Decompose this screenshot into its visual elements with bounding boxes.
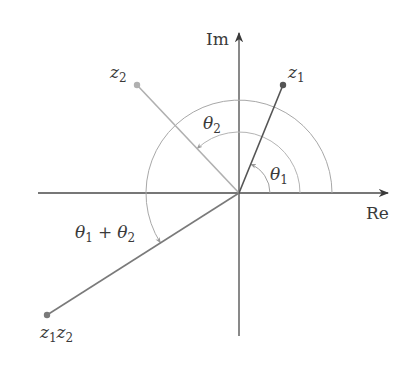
theta1-label: θ1	[270, 164, 288, 187]
theta2-label: θ2	[203, 113, 221, 136]
z2-point	[134, 82, 140, 88]
z1z2-point	[44, 312, 50, 318]
complex-multiplication-diagram: Im Re z1 z2 z1z2 θ1 θ2 θ1+θ2	[0, 0, 411, 376]
real-axis-label: Re	[366, 203, 389, 223]
z1-label: z1	[287, 62, 305, 85]
diagram-svg: Im Re z1 z2 z1z2 θ1 θ2 θ1+θ2	[0, 0, 411, 376]
z1-point	[280, 82, 286, 88]
z2-label: z2	[109, 62, 127, 85]
theta1-arc	[251, 164, 270, 193]
imag-axis-label: Im	[206, 29, 229, 49]
z1z2-vector	[47, 193, 239, 315]
theta-sum-label: θ1+θ2	[75, 222, 135, 245]
z1z2-label: z1z2	[39, 322, 73, 345]
